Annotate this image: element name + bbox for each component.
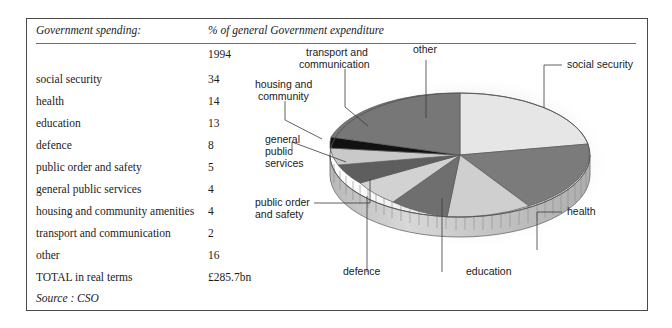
callout-housing-line1: housing and [255,79,312,91]
callout-general-public-line2: public [265,146,292,158]
row-label-housing: housing and community amenities [36,205,194,217]
pie-chart: transport and communication other housin… [250,22,650,307]
callout-public-order-line1: public order [255,197,310,209]
row-value-health: 14 [208,95,220,107]
row-value-transport: 2 [208,227,214,239]
table-year: 1994 [208,48,231,60]
callout-transport-line2: communication [299,59,370,71]
row-label-social-security: social security [36,73,102,85]
callout-general-public-line1: general [265,134,300,146]
row-value-other: 16 [208,249,220,261]
row-value-education: 13 [208,117,220,129]
callout-education: education [466,266,512,278]
row-label-other: other [36,249,60,261]
callout-housing-line2: community [258,91,309,103]
figure-root: Government spending: % of general Govern… [0,0,672,328]
callout-general-public-line3: services [265,158,304,170]
row-value-general-public: 4 [208,183,214,195]
callout-health: health [567,206,596,218]
row-value-social-security: 34 [208,73,220,85]
row-label-education: education [36,117,81,129]
row-label-defence: defence [36,139,72,151]
callout-public-order-line2: and safety [255,209,303,221]
row-value-public-order: 5 [208,161,214,173]
row-label-general-public: general public services [36,183,141,195]
callout-social-security: social security [567,59,633,71]
row-label-total: TOTAL in real terms [36,271,132,283]
row-label-health: health [36,95,64,107]
row-value-total: £285.7bn [208,271,251,283]
callout-transport-line1: transport and [306,47,368,59]
row-value-housing: 4 [208,205,214,217]
row-label-transport: transport and communication [36,227,171,239]
callout-other: other [413,44,437,56]
callout-defence: defence [343,266,380,278]
row-value-defence: 8 [208,139,214,151]
row-label-public-order: public order and safety [36,161,142,173]
table-header-left: Government spending: [36,24,141,36]
table-source: Source : CSO [36,292,99,304]
